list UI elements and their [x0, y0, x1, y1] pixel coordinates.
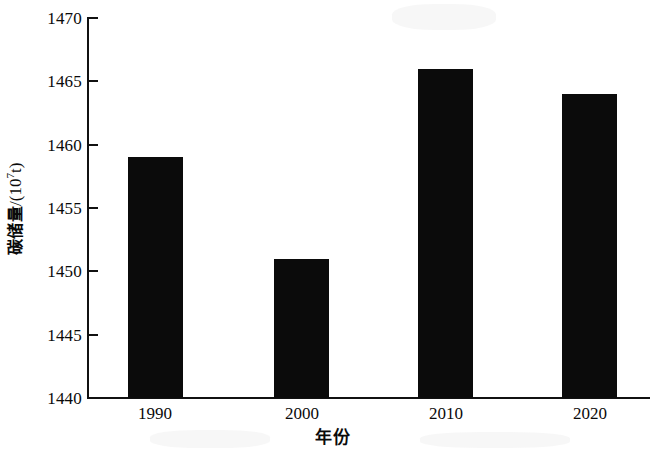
y-axis-unit-suffix: t) — [6, 163, 25, 173]
y-axis-tick-label: 1440 — [26, 390, 82, 407]
y-axis-title: 碳储量/(107t) — [6, 89, 26, 329]
y-axis-tick-label: 1465 — [26, 73, 82, 90]
y-axis-tick-label: 1470 — [26, 10, 82, 27]
x-axis-title-text: 年份 — [315, 427, 351, 447]
y-axis-tick-label: 1450 — [26, 263, 82, 280]
y-axis-tick-mark — [89, 80, 98, 82]
bar-chart-figure: 1470 1465 1460 1455 1450 1445 1440 1990 … — [0, 0, 665, 452]
x-axis-tick-label: 2010 — [408, 404, 484, 424]
y-axis-tick-label: 1445 — [26, 327, 82, 344]
scan-artifact — [392, 4, 496, 30]
y-axis-tick-mark — [89, 17, 98, 19]
y-axis-tick-mark — [89, 144, 98, 146]
y-axis-tick-mark — [89, 334, 98, 336]
x-axis-title: 年份 — [0, 426, 665, 448]
x-axis-tick-label: 2020 — [552, 404, 628, 424]
y-axis-tick-mark — [89, 207, 98, 209]
y-axis-tick-label: 1460 — [26, 137, 82, 154]
bar-2010 — [418, 69, 473, 398]
bar-2020 — [562, 94, 617, 398]
y-axis-tick-mark — [89, 270, 98, 272]
y-axis-unit-exponent: 7 — [4, 173, 16, 179]
y-axis-tick-label: 1455 — [26, 200, 82, 217]
y-axis-title-text: 碳储量 — [6, 206, 25, 256]
y-axis-unit-prefix: /(10 — [6, 179, 25, 206]
bar-2000 — [274, 259, 329, 398]
x-axis-tick-label: 1990 — [117, 404, 193, 424]
bar-1990 — [128, 157, 183, 398]
x-axis-tick-label: 2000 — [264, 404, 340, 424]
